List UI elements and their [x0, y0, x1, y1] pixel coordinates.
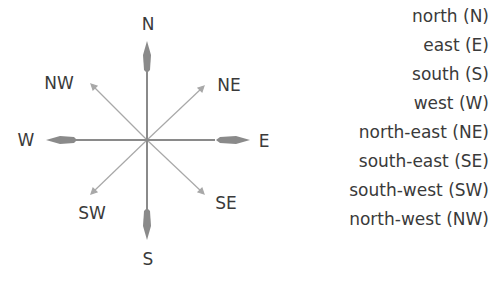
legend-item-north-east: north-east (NE): [249, 118, 489, 147]
label-south-west: SW: [78, 203, 106, 223]
legend-item-south: south (S): [249, 60, 489, 89]
legend-item-north: north (N): [249, 2, 489, 31]
label-south: S: [143, 249, 154, 269]
legend-item-north-west: north-west (NW): [249, 205, 489, 234]
n-arrowhead: [143, 41, 151, 73]
label-south-east: SE: [215, 193, 237, 213]
w-arrowhead: [46, 136, 77, 144]
s-arrowhead: [143, 208, 151, 240]
ne-arrow-line: [147, 88, 202, 140]
se-arrow-line: [147, 140, 202, 192]
label-north: N: [142, 14, 155, 34]
sw-arrow-line: [93, 140, 147, 192]
legend-item-west: west (W): [249, 89, 489, 118]
label-north-east: NE: [217, 75, 240, 95]
nw-arrow-line: [93, 86, 147, 140]
legend-item-east: east (E): [249, 31, 489, 60]
e-arrowhead: [216, 136, 250, 144]
label-north-west: NW: [44, 73, 74, 93]
label-west: W: [18, 130, 35, 150]
legend-item-south-east: south-east (SE): [249, 147, 489, 176]
legend-item-south-west: south-west (SW): [249, 176, 489, 205]
direction-legend: north (N) east (E) south (S) west (W) no…: [249, 2, 489, 234]
